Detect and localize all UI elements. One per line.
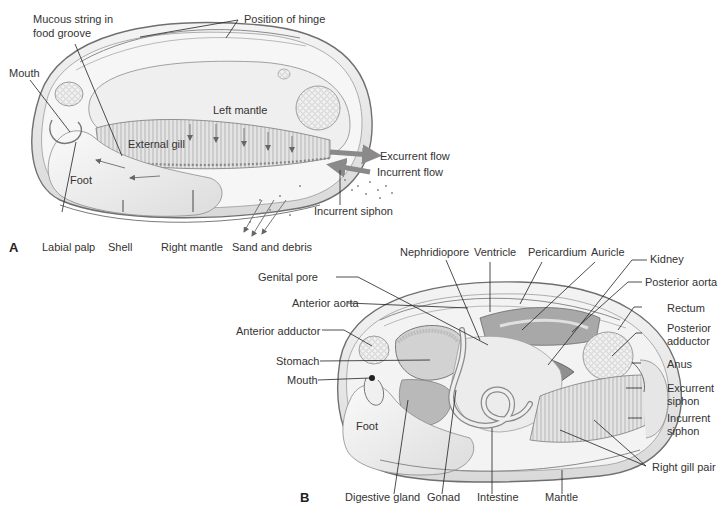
label-excurrent-siphon-line1: Excurrent [667,382,714,395]
label-left-mantle: Left mantle [213,104,267,117]
label-position-of-hinge: Position of hinge [244,13,325,26]
label-foot-a: Foot [70,174,92,187]
label-auricle: Auricle [591,246,625,259]
panel-b-illustration [318,260,681,494]
label-posterior-aorta: Posterior aorta [645,276,717,289]
label-anterior-aorta: Anterior aorta [292,297,359,310]
panel-a-letter: A [9,240,18,255]
label-nephridiopore: Nephridiopore [400,246,469,259]
label-incurrent-siphon-b-line1: Incurrent [667,412,710,425]
label-pericardium: Pericardium [528,246,587,259]
label-digestive-gland: Digestive gland [345,491,420,504]
label-sand-and-debris: Sand and debris [232,241,312,254]
label-excurrent-siphon-line2: siphon [667,395,699,408]
label-anus: Anus [667,358,692,371]
label-intestine: Intestine [477,491,519,504]
label-right-mantle: Right mantle [161,241,223,254]
label-incurrent-flow: Incurrent flow [377,166,443,179]
label-mucous-string-line2: food groove [33,27,91,40]
label-excurrent-flow: Excurrent flow [380,150,450,163]
label-incurrent-siphon-a: Incurrent siphon [314,205,393,218]
label-labial-palp: Labial palp [42,241,95,254]
label-kidney: Kidney [650,253,684,266]
label-anterior-adductor: Anterior adductor [236,325,320,338]
label-right-gill-pair: Right gill pair [652,461,716,474]
label-rectum: Rectum [667,302,705,315]
label-external-gill: External gill [128,138,185,151]
label-shell: Shell [108,241,132,254]
label-mucous-string-line1: Mucous string in [33,13,113,26]
panel-b-letter: B [300,490,309,505]
label-mouth-a: Mouth [9,67,40,80]
label-posterior-adductor-line2: adductor [667,335,710,348]
label-incurrent-siphon-b-line2: siphon [667,425,699,438]
panel-a-illustration [30,20,393,236]
label-mouth-b: Mouth [287,374,318,387]
clam-anatomy-figure: Mucous string in food groove Position of… [0,0,720,517]
label-stomach: Stomach [276,355,319,368]
label-ventricle: Ventricle [474,246,516,259]
label-gonad: Gonad [427,491,460,504]
label-foot-b: Foot [356,420,378,433]
label-mantle: Mantle [545,491,578,504]
label-genital-pore: Genital pore [258,271,318,284]
label-posterior-adductor-line1: Posterior [667,322,711,335]
